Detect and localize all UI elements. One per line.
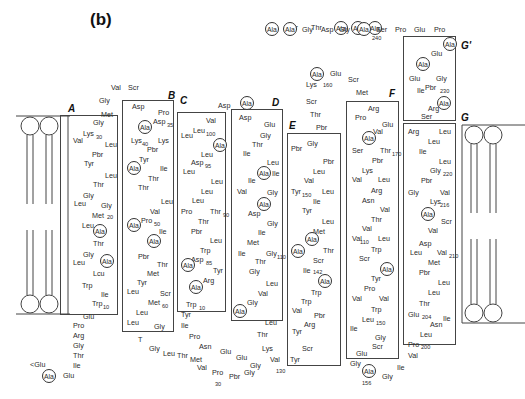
circled-residue: Ala: [42, 369, 56, 383]
residue: Leu: [438, 279, 450, 287]
residue: Leu: [105, 172, 117, 180]
residue: Ile: [181, 322, 189, 330]
residue-number: 110: [277, 253, 286, 261]
residue: Ile: [272, 170, 280, 178]
residue: Ile: [417, 87, 425, 95]
residue: Gly: [382, 373, 393, 381]
residue: Pbr: [138, 253, 149, 261]
residue: Tyr: [181, 311, 191, 319]
residue: Pro: [408, 341, 419, 349]
residue: Leu: [428, 289, 440, 297]
residue: Thr: [210, 208, 221, 216]
residue: Pro: [189, 333, 200, 341]
residue: Met: [92, 212, 104, 220]
circled-residue: Ala: [421, 207, 435, 221]
circled-residue: Ala: [100, 254, 114, 268]
helix-label: G': [461, 40, 471, 51]
residue: Lys: [362, 167, 373, 175]
residue: Leu: [378, 235, 390, 243]
residue: Glu: [83, 313, 94, 321]
residue: Thr: [198, 218, 209, 226]
residue: Met: [356, 89, 368, 97]
residue: Pro: [355, 114, 366, 122]
circled-residue: Ala: [181, 258, 195, 272]
residue: Ile: [258, 229, 266, 237]
residue: Lys: [262, 345, 273, 353]
residue: Thr: [323, 247, 334, 255]
residue: Ile: [419, 148, 427, 156]
residue: Pbr: [421, 177, 432, 185]
residue: Gly: [266, 250, 277, 258]
residue: Pbr: [229, 373, 240, 381]
residue: Ser: [376, 26, 387, 34]
residue: Ser: [352, 147, 363, 155]
helix-label: C: [180, 95, 187, 106]
residue: Gly: [101, 202, 112, 210]
residue-number: 35: [167, 121, 173, 129]
residue: Leu: [210, 237, 222, 245]
residue: Scr: [372, 343, 383, 351]
residue: Leu: [362, 316, 374, 324]
residue: Arg: [304, 321, 315, 329]
residue-number: 220: [443, 170, 452, 178]
residue: Leu: [410, 249, 422, 257]
residue: Gly: [93, 119, 104, 127]
residue: Thr: [177, 352, 188, 360]
residue: Tyr: [292, 328, 302, 336]
residue: Pro: [434, 26, 445, 34]
residue-number: 200: [421, 343, 430, 351]
circled-residue: Ala: [213, 138, 227, 152]
residue: Scr: [313, 257, 324, 265]
residue-number: 60: [162, 302, 168, 310]
residue: Gly: [339, 26, 350, 34]
residue-number: 85: [206, 259, 212, 267]
residue: Leu: [378, 176, 390, 184]
residue-number: 10: [103, 303, 109, 311]
residue: Pro: [364, 285, 375, 293]
residue: Val: [237, 188, 247, 196]
residue: Val: [111, 84, 121, 92]
residue-number: 216: [440, 201, 449, 209]
residue: Scr: [306, 98, 317, 106]
circled-residue: Ala: [291, 244, 305, 258]
residue: Thr: [380, 147, 391, 155]
residue: Scr: [160, 290, 171, 298]
residue: Leu: [136, 309, 148, 317]
residue: Glu: [330, 70, 341, 78]
residue-number: 150: [302, 191, 311, 199]
residue-number: 130: [276, 367, 285, 375]
residue: Trp: [92, 300, 103, 308]
residue: Tyr: [213, 267, 223, 275]
residue: Pbr: [372, 157, 383, 165]
residue: Gly: [408, 189, 419, 197]
residue: Gly: [73, 342, 84, 350]
residue: Pbr: [425, 84, 436, 92]
residue: Val: [73, 137, 83, 145]
residue: Leu: [439, 128, 451, 136]
residue-number: 20: [107, 213, 113, 221]
residue: Ile: [397, 364, 405, 372]
residue: Pbr: [147, 146, 158, 154]
residue: Leu: [267, 159, 279, 167]
residue: Thr: [310, 111, 321, 119]
helix-label: B: [168, 90, 175, 101]
residue: Ile: [238, 250, 246, 258]
residue: Val: [150, 208, 160, 216]
residue: Leu: [73, 259, 85, 267]
residue: Val: [352, 295, 362, 303]
residue: Thr: [73, 352, 84, 360]
residue: Leu: [193, 127, 205, 135]
residue: Scr: [359, 255, 370, 263]
residue-number: 90: [223, 211, 229, 219]
residue: Tyr: [137, 279, 147, 287]
circled-residue: Ala: [189, 280, 203, 294]
residue: Lys: [306, 81, 317, 89]
residue: Thr: [93, 181, 104, 189]
residue: Gly: [154, 323, 165, 331]
residue: Trp: [371, 306, 382, 314]
residue-number: 95: [205, 162, 211, 170]
residue: Pbr: [291, 145, 302, 153]
residue: Pbr: [419, 269, 430, 277]
circled-residue: Ala: [416, 57, 430, 71]
residue: Asp: [419, 240, 431, 248]
